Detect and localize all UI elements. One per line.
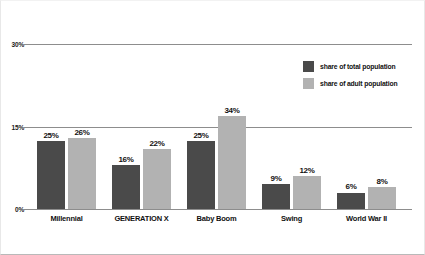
category-label-millennial: Millennial xyxy=(32,214,101,223)
chart-legend: share of total population share of adult… xyxy=(303,58,397,92)
bar-chart: 30% 15% 0% 25% 26% Millennial 16% 22% GE… xyxy=(0,0,425,255)
y-tick-label-0: 0% xyxy=(2,206,24,213)
y-tick-label-15: 15% xyxy=(2,124,24,131)
legend-label-adult: share of adult population xyxy=(320,80,397,88)
bar-total-generation-x[interactable] xyxy=(112,165,140,209)
bar-label-adult-swing: 12% xyxy=(293,166,321,175)
y-tick-mark-0 xyxy=(24,209,28,210)
bar-label-adult-generation-x: 22% xyxy=(143,139,171,148)
bar-total-baby-boom[interactable] xyxy=(187,141,215,209)
legend-item-share-of-adult-population[interactable]: share of adult population xyxy=(303,75,397,92)
bar-label-adult-world-war-ii: 8% xyxy=(368,177,396,186)
gridline-30 xyxy=(28,44,412,45)
bar-adult-swing[interactable] xyxy=(293,176,321,209)
legend-label-total: share of total population xyxy=(320,63,396,71)
bar-label-adult-baby-boom: 34% xyxy=(218,106,246,115)
bar-label-total-swing: 9% xyxy=(262,174,290,183)
bar-total-millennial[interactable] xyxy=(37,141,65,209)
legend-swatch-icon-adult xyxy=(303,78,314,89)
category-label-swing: Swing xyxy=(257,214,326,223)
bar-label-total-millennial: 25% xyxy=(37,131,65,140)
axis-baseline-0 xyxy=(28,209,412,210)
bar-adult-baby-boom[interactable] xyxy=(218,116,246,209)
category-label-generation-x: GENERATION X xyxy=(107,214,176,223)
category-label-world-war-ii: World War II xyxy=(332,214,401,223)
y-tick-label-30: 30% xyxy=(2,41,24,48)
bar-label-total-generation-x: 16% xyxy=(112,155,140,164)
y-tick-mark-15 xyxy=(24,127,28,128)
bar-label-total-world-war-ii: 6% xyxy=(337,182,365,191)
bar-total-world-war-ii[interactable] xyxy=(337,193,365,209)
legend-item-share-of-total-population[interactable]: share of total population xyxy=(303,58,397,75)
bar-adult-world-war-ii[interactable] xyxy=(368,187,396,209)
bar-adult-generation-x[interactable] xyxy=(143,149,171,209)
category-label-baby-boom: Baby Boom xyxy=(182,214,251,223)
bar-total-swing[interactable] xyxy=(262,184,290,209)
bar-label-total-baby-boom: 25% xyxy=(187,131,215,140)
bar-adult-millennial[interactable] xyxy=(68,138,96,209)
bar-label-adult-millennial: 26% xyxy=(68,128,96,137)
y-tick-mark-30 xyxy=(24,44,28,45)
legend-swatch-icon-total xyxy=(303,61,314,72)
